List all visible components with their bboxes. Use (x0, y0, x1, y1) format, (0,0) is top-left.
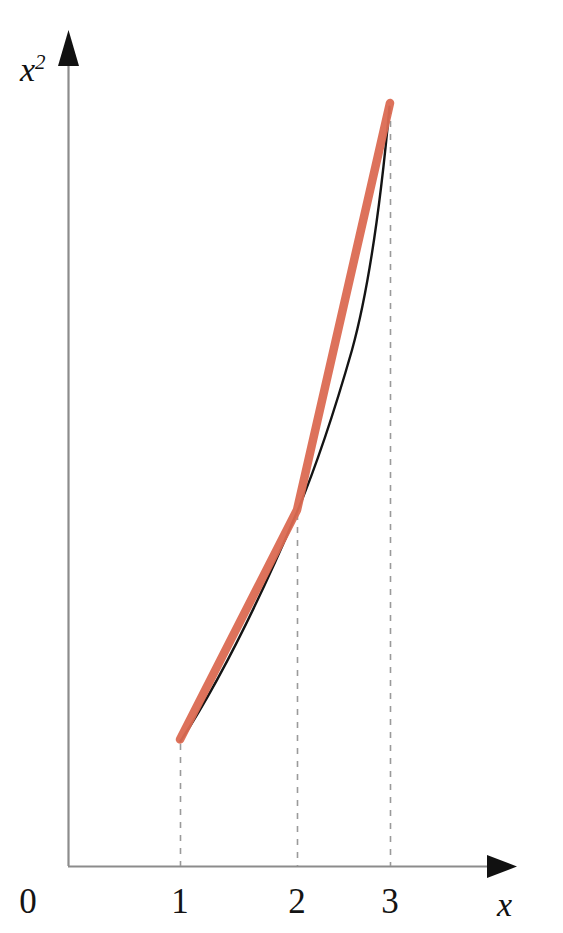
plot-area (0, 0, 563, 933)
y-axis-label-exponent: 2 (35, 50, 46, 74)
tick-label-3: 3 (368, 884, 412, 919)
x-axis-arrow-icon (487, 855, 517, 878)
parabola-curve (181, 107, 390, 741)
x-axis-label: x (497, 888, 512, 922)
y-axis-label: x2 (20, 52, 46, 87)
figure-canvas: x2 x 0 1 2 3 (0, 0, 563, 933)
y-axis-label-base: x (20, 51, 35, 88)
tick-label-2: 2 (275, 884, 319, 919)
y-axis-arrow-icon (58, 30, 79, 66)
tick-label-1: 1 (158, 884, 202, 919)
tick-label-0: 0 (6, 884, 50, 919)
secant-polyline (180, 103, 390, 740)
